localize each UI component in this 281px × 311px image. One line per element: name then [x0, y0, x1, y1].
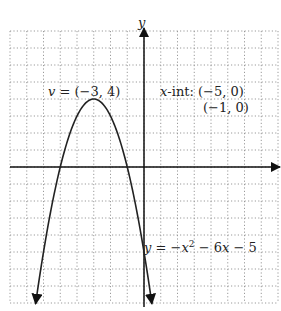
y-axis-label: y [137, 15, 146, 30]
vertex-label: v = (−3, 4) [48, 84, 120, 99]
equation-label: y = −x2 − 6x − 5 [143, 239, 257, 255]
x-intercept-second: (−1, 0) [203, 100, 249, 115]
parabola-graph: y v = (−3, 4) x-int: (−5, 0) (−1, 0) y =… [0, 0, 281, 311]
x-intercept-label: x-int: (−5, 0) [160, 84, 244, 99]
axes [10, 28, 280, 307]
